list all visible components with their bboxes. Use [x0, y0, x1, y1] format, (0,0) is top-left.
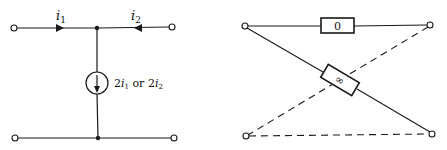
terminal-bottom-right	[171, 135, 177, 141]
solid-diagonal-upper	[247, 28, 323, 72]
top-wire-right	[97, 27, 169, 28]
label-i1: i1	[56, 8, 66, 25]
junction-top	[95, 26, 99, 30]
label-i2: i2	[131, 8, 141, 25]
terminal-top-left	[242, 23, 248, 29]
terminal-bottom-left	[243, 133, 249, 139]
source-arrow-head	[94, 86, 100, 93]
terminal-bottom-left	[12, 135, 18, 141]
terminal-top-left	[11, 25, 17, 31]
label-zero: 0	[334, 20, 341, 33]
terminal-top-right	[427, 22, 433, 28]
solid-diagonal-lower	[357, 89, 430, 132]
top-wire-right	[354, 25, 427, 26]
arrow-i2	[134, 24, 142, 32]
arrow-i1	[56, 24, 64, 32]
terminal-top-right	[169, 24, 175, 30]
terminal-bottom-right	[429, 131, 435, 137]
vertical-wire-bottom	[97, 94, 98, 138]
infinite-impedance-element: ∞	[321, 64, 360, 95]
label-source: 2i1 or 2i2	[114, 77, 163, 91]
junction-bottom	[96, 136, 100, 140]
dashed-bottom	[249, 134, 429, 136]
